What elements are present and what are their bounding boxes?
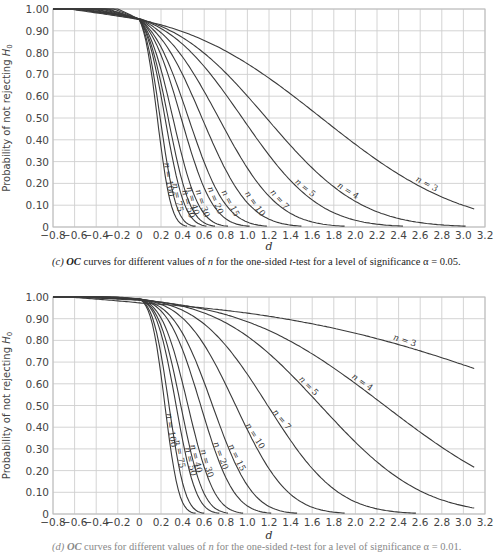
y-tick-label: 0.40 [26,421,49,433]
x-tick-label: 1.0 [239,229,256,241]
curve-label: n = 5 [297,374,321,398]
caption-c-prefix: (c) [52,256,64,267]
y-axis-label: Probability of not rejecting H0 [1,44,14,191]
x-tick-label: −0.2 [105,229,131,241]
x-tick-label: 2.4 [390,229,407,241]
caption-c-text: curves for different values of [81,256,208,267]
y-tick-label: 0 [42,508,49,520]
y-tick-label: 0.40 [26,134,49,146]
x-tick-label: 3.2 [477,229,494,241]
x-axis-ticks: −0.8−0.6−0.4−0.200.20.40.60.81.01.21.41.… [40,516,493,528]
y-tick-label: 0.50 [26,400,49,412]
y-tick-label: 0 [42,221,49,233]
x-tick-label: −0.2 [105,516,131,528]
caption-d-text2: for the one-sided [214,541,290,552]
y-tick-label: 0.60 [26,378,49,390]
y-tick-label: 0.80 [26,47,49,59]
y-tick-label: 0.20 [26,177,49,189]
x-tick-label: 0.6 [196,229,213,241]
x-tick-label: 2.2 [369,516,386,528]
y-tick-label: 0.60 [26,90,49,102]
caption-d-text3: -test for a level of significance α = 0.… [293,541,461,552]
x-tick-label: 0 [136,229,143,241]
caption-d-text: curves for different values of [81,541,208,552]
caption-c-text3: -test for a level of significance α = 0.… [292,256,460,267]
y-tick-label: 0.90 [26,25,49,37]
y-tick-label: 0.10 [26,199,49,211]
x-tick-label: 1.2 [261,516,278,528]
curve-label: n = 15 [226,442,248,472]
y-tick-label: 1.00 [26,291,49,303]
caption-d-prefix: (d) [52,541,64,552]
y-tick-label: 0.80 [26,334,49,346]
x-tick-label: 0.8 [217,229,234,241]
y-tick-label: 0.20 [26,465,49,477]
caption-c-text2: for the one-sided [213,256,289,267]
x-tick-label: 2.0 [347,516,364,528]
x-tick-label: 1.4 [282,229,299,241]
x-tick-label: 2.2 [369,229,386,241]
x-tick-label: 2.0 [347,229,364,241]
y-tick-label: 0.70 [26,68,49,80]
y-tick-label: 0.90 [26,313,49,325]
x-tick-label: 3.0 [455,516,472,528]
x-tick-label: 3.2 [477,516,494,528]
y-tick-label: 0.10 [26,486,49,498]
x-tick-label: 0.8 [217,516,234,528]
x-tick-label: 0 [136,516,143,528]
x-tick-label: 0.2 [153,516,170,528]
y-axis-ticks: 00.100.200.300.400.500.600.700.800.901.0… [26,291,49,520]
caption-d-oc: OC [64,541,81,552]
x-tick-label: 2.8 [433,516,450,528]
x-tick-label: 0.2 [153,229,170,241]
grid [53,297,485,514]
x-tick-label: 1.0 [239,516,256,528]
x-tick-label: 1.6 [304,516,321,528]
x-tick-label: 0.4 [174,516,191,528]
curve-label: n = 10 [243,189,268,218]
x-tick-label: 1.8 [325,229,342,241]
x-tick-label: 1.4 [282,516,299,528]
y-tick-label: 1.00 [26,3,49,15]
x-tick-label: 1.8 [325,516,342,528]
caption-c: (c) OC curves for different values of n … [52,256,461,267]
x-tick-label: 2.6 [412,516,429,528]
y-axis-label: Probability of not rejecting H0 [1,332,14,479]
plot-d-alpha-001: −0.8−0.6−0.4−0.200.20.40.60.81.01.21.41.… [1,291,493,542]
x-tick-label: 1.6 [304,229,321,241]
plot-c-alpha-005: −0.8−0.6−0.4−0.200.20.40.60.81.01.21.41.… [1,3,493,253]
x-tick-label: 3.0 [455,229,472,241]
y-tick-label: 0.30 [26,156,49,168]
x-axis-label: d [265,240,272,253]
x-tick-label: 0.4 [174,229,191,241]
y-axis-ticks: 00.100.200.300.400.500.600.700.800.901.0… [26,3,49,233]
x-tick-label: 2.8 [433,229,450,241]
y-tick-label: 0.30 [26,443,49,455]
x-tick-label: 2.4 [390,516,407,528]
oc-curve [53,9,474,209]
caption-c-oc: OC [64,256,81,267]
curve-label: n = 4 [350,371,375,393]
y-tick-label: 0.50 [26,112,49,124]
caption-d: (d) OC curves for different values of n … [52,541,461,552]
x-tick-label: 0.6 [196,516,213,528]
y-tick-label: 0.70 [26,356,49,368]
x-tick-label: 2.6 [412,229,429,241]
oc-curve [53,297,474,369]
curve-label: n = 100 [164,413,179,448]
